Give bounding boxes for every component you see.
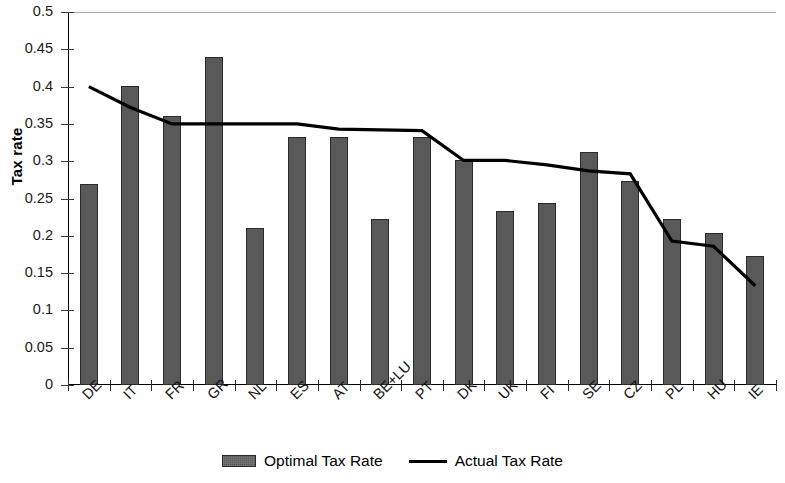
bar — [580, 152, 598, 385]
bar — [455, 160, 473, 385]
y-tick-label: 0 — [0, 376, 53, 392]
tax-rate-chart: Tax rate 0.50.450.40.350.30.250.20.150.1… — [0, 0, 785, 483]
y-tick: 0.45 — [61, 49, 74, 50]
y-tick: 0.4 — [61, 87, 74, 88]
legend-item-optimal-tax-rate: Optimal Tax Rate — [222, 452, 383, 470]
bar — [288, 137, 306, 385]
y-tick-label: 0.35 — [0, 115, 53, 131]
y-tick: 0.1 — [61, 310, 74, 311]
bar — [121, 86, 139, 385]
bar — [705, 233, 723, 385]
y-tick-label: 0.15 — [0, 264, 53, 280]
bar — [80, 184, 98, 385]
legend-label-optimal: Optimal Tax Rate — [264, 452, 383, 470]
y-tick-label: 0.05 — [0, 339, 53, 355]
y-tick-label: 0.45 — [0, 40, 53, 56]
line-swatch-icon — [409, 460, 447, 463]
chart-legend: Optimal Tax Rate Actual Tax Rate — [0, 452, 785, 470]
y-tick-label: 0.2 — [0, 227, 53, 243]
bar — [663, 219, 681, 385]
bar — [163, 116, 181, 385]
y-tick-label: 0.5 — [0, 3, 53, 19]
bar-swatch-icon — [222, 455, 256, 467]
y-tick-label: 0.4 — [0, 78, 53, 94]
legend-item-actual-tax-rate: Actual Tax Rate — [409, 452, 563, 470]
bar — [246, 228, 264, 385]
y-tick-label: 0.3 — [0, 152, 53, 168]
bar — [746, 256, 764, 385]
legend-label-actual: Actual Tax Rate — [455, 452, 563, 470]
x-axis-label: IT — [120, 382, 140, 402]
x-tick — [776, 380, 777, 391]
y-tick: 0.2 — [61, 236, 74, 237]
x-axis-category-labels: DEITFRGRNLESATBE+LUPTDKUKFISECZPLHUIE — [68, 385, 776, 445]
bar — [413, 137, 431, 385]
y-tick-label: 0.25 — [0, 190, 53, 206]
y-tick: 0.35 — [61, 124, 74, 125]
bar — [205, 57, 223, 385]
x-axis-label: IE — [745, 381, 766, 402]
y-tick-label: 0.1 — [0, 301, 53, 317]
plot-area: 0.50.450.40.350.30.250.20.150.10.050 — [68, 12, 776, 385]
y-tick: 0.5 — [61, 12, 74, 13]
bar — [371, 219, 389, 385]
bar — [538, 203, 556, 385]
y-tick: 0.3 — [61, 161, 74, 162]
bar — [621, 181, 639, 385]
y-tick: 0.25 — [61, 199, 74, 200]
x-axis-label: FI — [537, 382, 557, 402]
bar — [330, 137, 348, 385]
y-tick: 0.05 — [61, 348, 74, 349]
bar — [496, 211, 514, 385]
y-tick: 0.15 — [61, 273, 74, 274]
